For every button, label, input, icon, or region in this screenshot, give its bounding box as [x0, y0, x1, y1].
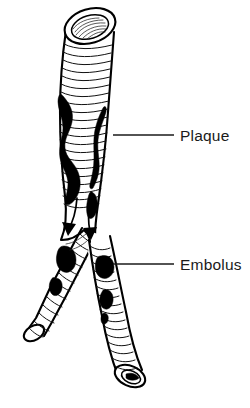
label-embolus-group: Embolus [113, 256, 242, 273]
embolus-left-branch-2 [49, 278, 62, 296]
embolus-label: Embolus [180, 256, 242, 273]
artery-diagram-svg: Plaque Embolus [0, 0, 250, 408]
embolus-right-branch-2 [100, 290, 113, 309]
right-branch-artery [88, 232, 149, 392]
artery-illustration: Plaque Embolus [0, 0, 250, 408]
label-plaque-group: Plaque [113, 127, 229, 144]
plaque-label: Plaque [180, 127, 229, 144]
embolus-right-branch-1 [95, 256, 114, 279]
embolus-right-branch-3 [101, 313, 108, 324]
